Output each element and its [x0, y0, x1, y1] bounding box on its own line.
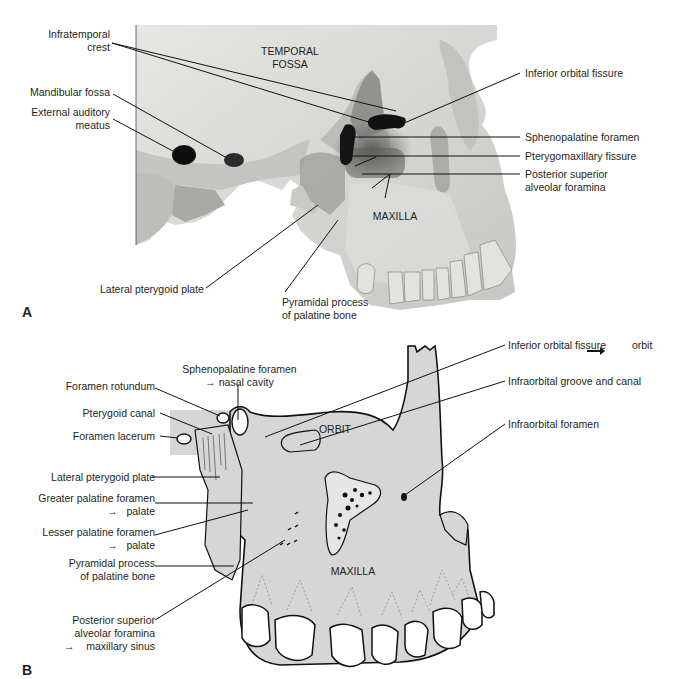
label-line: Sphenopalatine foramen — [182, 363, 297, 376]
region-orbit: ORBIT — [305, 423, 365, 436]
label-line-with-arrow: → palate — [10, 539, 155, 552]
label-line: Lesser palatine foramen — [10, 526, 155, 539]
label-line: of palatine bone — [10, 570, 155, 583]
label-line-with-arrow: → nasal cavity — [182, 376, 297, 389]
label-inferior-orbital-fissure-b: Inferior orbital fissure orbit — [508, 339, 652, 352]
label-posterior-superior-alveolar-foramina-b: Posterior superior alveolar foramina → m… — [10, 614, 155, 653]
label-text: Inferior orbital fissure — [508, 339, 606, 351]
label-lateral-pterygoid-plate-b: Lateral pterygoid plate — [10, 471, 155, 484]
label-text: nasal cavity — [219, 376, 274, 388]
arrow-right-icon: → — [205, 376, 216, 388]
label-greater-palatine-foramen: Greater palatine foramen → palate — [10, 492, 155, 518]
label-line-with-arrow: → maxillary sinus — [10, 640, 155, 653]
arrow-right-icon: → — [107, 539, 118, 551]
panel-letter-b: B — [22, 662, 32, 678]
label-pterygoid-canal: Pterygoid canal — [20, 407, 155, 420]
label-foramen-lacerum: Foramen lacerum — [20, 430, 155, 443]
label-line: Pyramidal process — [10, 557, 155, 570]
label-line: Greater palatine foramen — [10, 492, 155, 505]
label-pyramidal-process-b: Pyramidal process of palatine bone — [10, 557, 155, 583]
label-line: alveolar foramina — [10, 627, 155, 640]
label-line-with-arrow: → palate — [10, 505, 155, 518]
label-text: maxillary sinus — [86, 640, 155, 652]
label-line: Posterior superior — [10, 614, 155, 627]
arrow-right-icon: → — [64, 640, 75, 652]
label-foramen-rotundum: Foramen rotundum — [20, 380, 155, 393]
label-text: orbit — [632, 339, 652, 351]
label-infraorbital-groove: Infraorbital groove and canal — [508, 375, 641, 388]
region-maxilla-drawing: MAXILLA — [318, 565, 388, 578]
label-text: palate — [126, 505, 155, 517]
arrow-right-icon: → — [107, 505, 118, 517]
label-lesser-palatine-foramen: Lesser palatine foramen → palate — [10, 526, 155, 552]
label-text: palate — [126, 539, 155, 551]
label-sphenopalatine-foramen-b: Sphenopalatine foramen → nasal cavity — [182, 363, 297, 389]
label-infraorbital-foramen: Infraorbital foramen — [508, 418, 599, 431]
